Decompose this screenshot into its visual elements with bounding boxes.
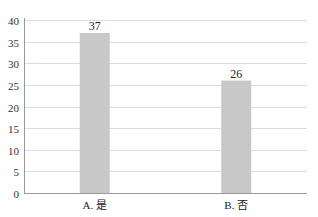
bar-2	[221, 81, 251, 193]
bar-chart: 0510152025303540 3726 A. 是B. 否	[0, 0, 318, 217]
y-tick-label: 10	[8, 145, 20, 157]
x-category-label: B. 否	[224, 199, 248, 211]
y-tick-label: 5	[14, 166, 20, 178]
y-tick-label: 0	[14, 188, 20, 200]
bar-1	[80, 33, 110, 193]
value-label: 37	[89, 19, 101, 33]
y-tick-label: 25	[8, 80, 20, 92]
gridlines	[24, 21, 307, 172]
y-tick-label: 40	[8, 15, 20, 27]
bars	[80, 33, 252, 193]
y-tick-label: 35	[8, 37, 20, 49]
y-tick-label: 30	[8, 58, 20, 70]
y-tick-label: 15	[8, 123, 20, 135]
x-category-label: A. 是	[83, 199, 107, 211]
value-label: 26	[230, 67, 242, 81]
y-tick-label: 20	[8, 102, 20, 114]
x-axis-categories: A. 是B. 否	[83, 199, 249, 211]
value-labels: 3726	[89, 19, 243, 81]
chart-canvas: 0510152025303540 3726 A. 是B. 否	[0, 0, 318, 217]
y-axis-ticks: 0510152025303540	[8, 15, 20, 200]
